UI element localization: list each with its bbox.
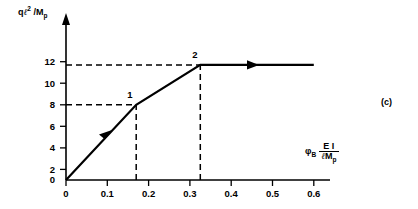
y-ticklabel-2: 2	[50, 164, 55, 175]
curve-direction-arrow-1	[99, 130, 112, 139]
load-deflection-curve	[66, 65, 314, 180]
y-axis-label-m-subscript: p	[44, 12, 48, 19]
panel-label: (c)	[381, 97, 392, 107]
y-axis-label-exponent: 2	[27, 5, 31, 12]
annotation-point-2: 2	[192, 49, 197, 60]
y-ticklabel-12: 12	[44, 56, 55, 67]
x-ticklabel-0-5: 0.5	[266, 188, 280, 199]
x-axis-label-phi-group: φB	[305, 147, 316, 159]
x-ticklabel-0-1: 0.1	[101, 188, 115, 199]
x-axis-label-denominator: ℓMp	[319, 151, 338, 164]
x-axis-label-phi-subscript: B	[311, 151, 316, 158]
x-axis-label-denominator-subscript: p	[333, 156, 337, 163]
chart-canvas: 0 2 4 6 8 10 12 0 0.1 0.2 0.3 0.4 0.5 0.…	[0, 0, 418, 209]
curve-direction-arrow-2	[247, 60, 259, 69]
x-axis-label: φB E I ℓMp	[305, 142, 339, 164]
figure-panel-c: 0 2 4 6 8 10 12 0 0.1 0.2 0.3 0.4 0.5 0.…	[0, 0, 418, 209]
x-axis-label-fraction: E I ℓMp	[319, 142, 338, 164]
x-ticklabel-0-3: 0.3	[183, 188, 196, 199]
y-axis-arrowhead	[62, 13, 70, 25]
y-ticklabel-6: 6	[50, 121, 55, 132]
x-tick-marks	[66, 180, 314, 186]
y-ticklabel-8: 8	[50, 99, 55, 110]
y-ticklabel-0: 0	[50, 174, 55, 185]
x-axis-label-numerator: E I	[321, 142, 336, 151]
y-ticklabel-10: 10	[44, 78, 55, 89]
annotation-point-1: 1	[127, 89, 133, 100]
y-axis-label: qℓ2 /Mp	[18, 6, 48, 20]
x-ticklabel-0-6: 0.6	[307, 188, 320, 199]
x-ticklabel-0: 0	[63, 188, 68, 199]
x-axis-label-denominator-m: M	[325, 151, 333, 161]
y-ticklabel-4: 4	[50, 142, 56, 153]
y-axis-label-m: M	[36, 7, 44, 17]
x-ticklabel-0-2: 0.2	[142, 188, 155, 199]
x-ticklabel-0-4: 0.4	[225, 188, 239, 199]
y-tick-marks	[60, 62, 66, 170]
